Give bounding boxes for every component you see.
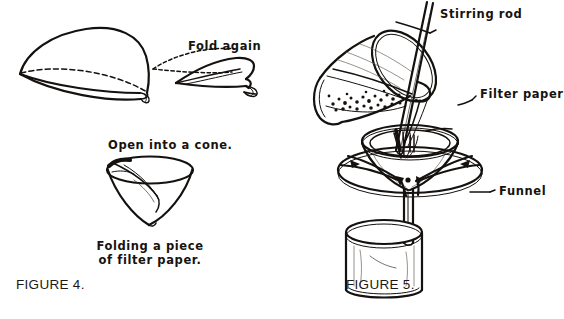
- figure-5-label: FIGURE 5.: [346, 277, 415, 292]
- stirring-rod-label: Stirring rod: [440, 8, 522, 22]
- open-into-cone-label: Open into a cone.: [108, 139, 233, 153]
- figure-5-panel: Stirring rod Filter paper Funnel FIGURE …: [300, 0, 559, 319]
- quarter-folded-paper: [153, 48, 257, 96]
- fold-again-label: Fold again: [188, 40, 261, 54]
- filter-paper-label: Filter paper: [480, 88, 564, 102]
- opened-cone: [107, 157, 193, 227]
- leader-filter-paper: [458, 100, 472, 105]
- figure-5-artwork: [300, 0, 559, 319]
- figure-4-panel: Fold again Open into a cone. Folding a p…: [0, 0, 300, 319]
- figure-4-label: FIGURE 4.: [16, 277, 85, 292]
- pouring-beaker: [314, 18, 449, 124]
- half-folded-paper: [20, 28, 149, 103]
- folding-caption-line-2: of filter paper.: [88, 254, 212, 268]
- funnel-label: Funnel: [499, 185, 546, 199]
- folding-caption-line-1: Folding a piece: [88, 240, 212, 254]
- precipitate-granules: [328, 90, 402, 112]
- pour-stream: [404, 100, 427, 146]
